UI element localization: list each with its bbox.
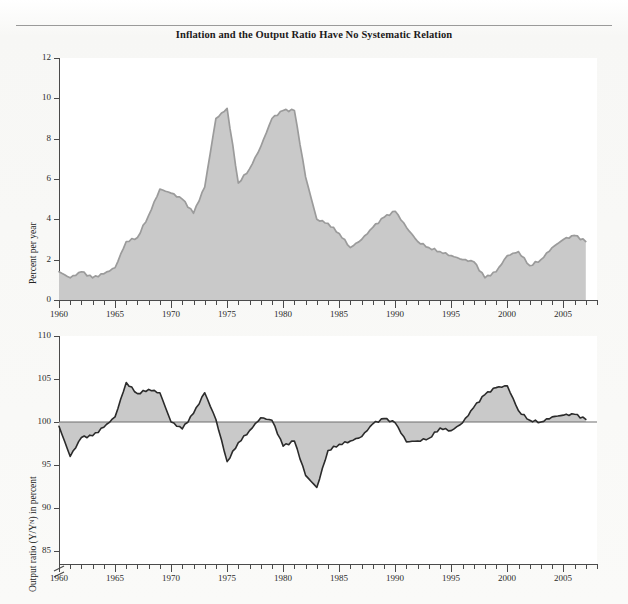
title-rule <box>16 25 612 26</box>
x-axis-label: 1990 <box>375 574 415 583</box>
inflation-y-axis-title: Percent per year <box>28 222 38 284</box>
figure-title: Inflation and the Output Ratio Have No S… <box>16 29 612 40</box>
x-axis-label: 2005 <box>543 310 583 319</box>
x-axis-tick-major <box>283 301 284 308</box>
x-axis-label: 1985 <box>319 574 359 583</box>
y-axis-label: 100 <box>23 417 51 426</box>
x-axis-label: 2005 <box>543 574 583 583</box>
inflation-chart: Percent per year Inflation rate 02468101… <box>0 44 628 314</box>
y-axis-label: 110 <box>23 331 51 340</box>
x-axis-label: 1975 <box>207 310 247 319</box>
x-axis-tick-major <box>339 301 340 308</box>
x-axis-label: 1965 <box>95 574 135 583</box>
x-axis-tick-major <box>395 301 396 308</box>
x-axis-label: 1960 <box>39 310 79 319</box>
series-canvas <box>59 58 599 302</box>
x-axis-label: 1980 <box>263 310 303 319</box>
x-axis-label: 1970 <box>151 310 191 319</box>
series-fill <box>59 382 586 487</box>
x-axis-label: 1965 <box>95 310 135 319</box>
y-axis-label: 95 <box>23 460 51 469</box>
output-ratio-chart: Output ratio (Y/Yᴺ) in percent Output ra… <box>0 326 628 604</box>
x-axis-tick-major <box>171 565 172 572</box>
x-axis-label: 1990 <box>375 310 415 319</box>
x-axis-label: 1985 <box>319 310 359 319</box>
y-axis-label: 0 <box>23 295 51 304</box>
x-axis-label: 1960 <box>39 574 79 583</box>
y-axis-label: 2 <box>23 255 51 264</box>
x-axis-tick-major <box>59 565 60 572</box>
x-axis-label: 1995 <box>431 310 471 319</box>
x-axis-tick-major <box>507 565 508 572</box>
x-axis-tick-major <box>563 565 564 572</box>
y-axis-label: 85 <box>23 546 51 555</box>
x-axis-tick-major <box>451 301 452 308</box>
x-axis-tick-major <box>115 565 116 572</box>
x-axis-tick-major <box>451 565 452 572</box>
y-axis-label: 6 <box>23 174 51 183</box>
x-axis-tick-major <box>339 565 340 572</box>
x-axis-tick-major <box>59 301 60 308</box>
x-axis-tick-major <box>227 565 228 572</box>
x-axis-tick-major <box>507 301 508 308</box>
x-axis-label: 1995 <box>431 574 471 583</box>
x-axis-tick-major <box>563 301 564 308</box>
y-axis-label: 12 <box>23 53 51 62</box>
x-axis-label: 1975 <box>207 574 247 583</box>
series-fill <box>59 108 586 300</box>
x-axis-label: 1980 <box>263 574 303 583</box>
x-axis-label: 2000 <box>487 310 527 319</box>
x-axis-label: 1970 <box>151 574 191 583</box>
series-canvas <box>59 336 599 566</box>
y-axis-label: 4 <box>23 214 51 223</box>
x-axis-tick-major <box>115 301 116 308</box>
x-axis-tick-major <box>227 301 228 308</box>
output-ratio-y-axis-title: Output ratio (Y/Yᴺ) in percent <box>28 476 38 592</box>
y-axis-label: 90 <box>23 503 51 512</box>
x-axis-tick-major <box>395 565 396 572</box>
x-axis-tick-major <box>171 301 172 308</box>
y-axis-label: 10 <box>23 93 51 102</box>
y-axis-label: 105 <box>23 374 51 383</box>
y-axis-label: 8 <box>23 134 51 143</box>
figure-page: Inflation and the Output Ratio Have No S… <box>0 0 628 604</box>
x-axis-label: 2000 <box>487 574 527 583</box>
x-axis-tick-major <box>283 565 284 572</box>
